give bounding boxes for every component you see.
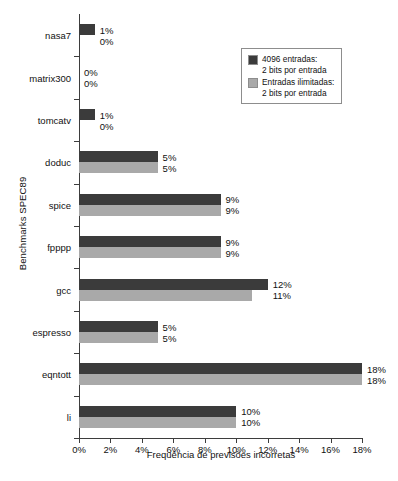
legend-item-label: 4096 entradas: 2 bits por entrada <box>262 54 327 75</box>
y-axis-tick-label: gcc <box>56 284 71 295</box>
x-axis-title: Frequência de previsões incorretas <box>79 449 363 460</box>
x-axis-tick <box>205 438 206 443</box>
x-axis-tick <box>142 438 143 443</box>
figure-caption <box>4 472 398 481</box>
bar-value-label: 9% <box>226 194 240 205</box>
legend-item-line1: Entradas ilimitadas: <box>262 77 334 87</box>
x-axis-tick <box>236 438 237 443</box>
bar-series-1 <box>79 151 158 162</box>
bar-value-label: 1% <box>100 109 114 120</box>
legend-item: Entradas ilimitadas: 2 bits por entrada <box>248 77 334 98</box>
legend-item-label: Entradas ilimitadas: 2 bits por entrada <box>262 77 334 98</box>
bar-value-label: 10% <box>241 406 260 417</box>
bar-value-label: 9% <box>226 247 240 258</box>
bar-series-1 <box>79 279 268 290</box>
bar-value-label: 11% <box>273 290 291 301</box>
y-axis-tick <box>74 268 79 269</box>
bar-value-label: 18% <box>367 374 386 385</box>
chart-legend: 4096 entradas: 2 bits por entrada Entrad… <box>241 48 342 104</box>
legend-swatch-icon <box>248 78 258 88</box>
bar-series-2 <box>79 332 158 343</box>
bar-series-2 <box>79 290 252 301</box>
y-axis-tick-label: eqntott <box>42 369 71 380</box>
bar-value-label: 9% <box>226 236 240 247</box>
bar-value-label: 9% <box>226 205 240 216</box>
bar-series-2 <box>79 374 362 385</box>
bar-value-label: 5% <box>163 151 177 162</box>
bar-value-label: 0% <box>84 78 98 89</box>
chart-figure: Benchmarks SPEC89 nasa71%0%matrix3000%0%… <box>0 0 398 481</box>
bar-value-label: 0% <box>84 67 98 78</box>
y-axis-tick <box>74 226 79 227</box>
legend-swatch-icon <box>248 55 258 65</box>
x-axis-tick <box>362 438 363 443</box>
y-axis-title: Benchmarks SPEC89 <box>17 144 28 304</box>
bar-value-label: 1% <box>100 24 114 35</box>
y-axis-tick <box>74 56 79 57</box>
bar-value-label: 5% <box>163 332 177 343</box>
bar-series-1 <box>79 236 221 247</box>
bar-series-1 <box>79 109 95 120</box>
bar-series-1 <box>79 24 95 35</box>
y-axis-tick-label: spice <box>49 199 71 210</box>
bar-series-1 <box>79 363 362 374</box>
y-axis-tick-label: fpppp <box>47 242 71 253</box>
y-axis-tick <box>74 184 79 185</box>
y-axis-tick <box>74 353 79 354</box>
x-axis-tick <box>79 438 80 443</box>
bar-value-label: 12% <box>273 279 292 290</box>
legend-item: 4096 entradas: 2 bits por entrada <box>248 54 334 75</box>
bar-series-2 <box>79 162 158 173</box>
y-axis-tick-label: doduc <box>45 157 71 168</box>
y-axis-tick <box>74 311 79 312</box>
bar-value-label: 0% <box>100 120 114 131</box>
bar-value-label: 18% <box>367 363 386 374</box>
bar-value-label: 0% <box>100 35 114 46</box>
bar-series-2 <box>79 247 221 258</box>
y-axis-tick-label: tomcatv <box>38 115 71 126</box>
y-axis-tick <box>74 141 79 142</box>
bar-value-label: 10% <box>241 417 260 428</box>
x-axis-tick <box>299 438 300 443</box>
y-axis-tick-label: li <box>67 411 71 422</box>
bar-series-2 <box>79 417 236 428</box>
y-axis-tick-label: nasa7 <box>45 30 71 41</box>
bar-series-2 <box>79 205 221 216</box>
x-axis-tick <box>173 438 174 443</box>
x-axis-tick <box>268 438 269 443</box>
y-axis-tick <box>74 99 79 100</box>
x-axis-tick <box>110 438 111 443</box>
x-axis-tick <box>331 438 332 443</box>
bar-value-label: 5% <box>163 162 177 173</box>
bar-series-1 <box>79 406 236 417</box>
legend-item-line2: 2 bits por entrada <box>262 65 327 76</box>
x-axis-line <box>79 438 363 439</box>
y-axis-tick-label: espresso <box>32 327 71 338</box>
y-axis-tick <box>74 396 79 397</box>
bar-value-label: 5% <box>163 321 177 332</box>
legend-item-line2: 2 bits por entrada <box>262 88 334 99</box>
bar-series-1 <box>79 321 158 332</box>
y-axis-tick-label: matrix300 <box>29 72 71 83</box>
legend-item-line1: 4096 entradas: <box>262 54 317 64</box>
bar-series-1 <box>79 194 221 205</box>
